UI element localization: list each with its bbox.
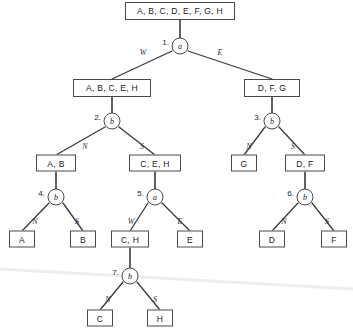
set-box-set-ab: A, B	[36, 155, 76, 172]
set-box-leaf-e: E	[177, 231, 203, 248]
tree-edge-n2-to-ceh	[119, 127, 155, 155]
edge-label-e7-s: S	[153, 295, 157, 304]
tree-edge-n4-to-b	[63, 203, 83, 231]
set-box-leaf-g: G	[231, 155, 257, 172]
set-box-root-set: A, B, C, D, E, F, G, H	[125, 2, 235, 20]
split-node-index-n7: 7.	[112, 268, 119, 277]
edge-label-e5-w: W	[128, 217, 135, 226]
set-box-leaf-h: H	[147, 310, 173, 327]
split-node-n6: b	[297, 189, 314, 206]
split-node-n2: b	[104, 113, 121, 130]
edge-label-e6-n: N	[281, 217, 286, 226]
set-box-leaf-b: B	[70, 231, 96, 248]
split-node-n5: a	[147, 189, 164, 206]
split-node-index-n5: 5.	[137, 189, 144, 198]
split-node-n4: b	[48, 189, 65, 206]
edge-label-e2-s: S	[140, 142, 144, 151]
split-node-index-n6: 6.	[287, 189, 294, 198]
split-node-index-n2: 2.	[94, 113, 101, 122]
set-box-leaf-f: F	[321, 231, 347, 248]
set-box-set-west: A, B, C, E, H	[73, 79, 151, 97]
set-box-set-ceh: C, E, H	[129, 155, 181, 172]
tree-edge-n1-to-east	[188, 51, 272, 79]
split-node-index-n4: 4.	[38, 189, 45, 198]
split-node-index-n1: 1.	[162, 38, 169, 47]
tree-edge-n5-to-e	[162, 203, 190, 231]
edge-label-e5-e: E	[178, 217, 183, 226]
edge-label-e1-w: W	[140, 48, 147, 57]
split-node-n3: b	[264, 113, 281, 130]
edge-label-e6-s: S	[325, 217, 329, 226]
tree-edge-n2-to-ab	[56, 127, 105, 155]
watermark-line	[0, 269, 353, 289]
set-box-leaf-d: D	[259, 231, 285, 248]
set-box-set-ch: C, H	[111, 231, 149, 248]
edge-label-e2-n: N	[82, 142, 87, 151]
split-node-n1: a	[172, 38, 189, 55]
edge-label-e3-n: N	[246, 142, 251, 151]
edge-label-e4-s: S	[75, 217, 79, 226]
set-box-leaf-a: A	[9, 231, 35, 248]
edge-label-e4-n: N	[32, 217, 37, 226]
edge-label-e1-e: E	[218, 48, 223, 57]
set-box-set-df: D, F	[285, 155, 325, 172]
tree-diagram-canvas: A, B, C, D, E, F, G, HA, B, C, E, HD, F,…	[0, 0, 353, 331]
split-node-n7: b	[122, 268, 139, 285]
set-box-set-east: D, F, G	[244, 79, 300, 97]
edge-label-e3-s: S	[291, 142, 295, 151]
tree-edge-n7-to-c	[100, 282, 123, 310]
set-box-leaf-c: C	[87, 310, 113, 327]
tree-edge-n6-to-f	[312, 203, 334, 231]
split-node-index-n3: 3.	[254, 113, 261, 122]
watermark-streak	[0, 269, 353, 289]
edge-label-e7-n: N	[105, 295, 110, 304]
